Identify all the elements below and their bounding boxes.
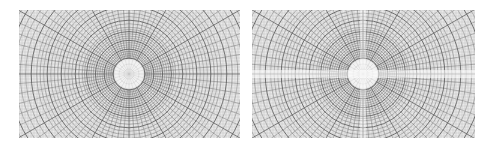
- polar-grid-image-right: [252, 10, 475, 138]
- polar-grid-image-left: [19, 10, 240, 138]
